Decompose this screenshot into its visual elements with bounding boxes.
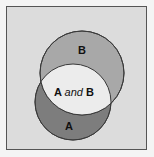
venn-diagram: B A A and B bbox=[0, 0, 154, 157]
set-b-label: B bbox=[78, 44, 86, 56]
intersection-label-and: and bbox=[65, 86, 84, 98]
set-a-label: A bbox=[65, 120, 73, 132]
intersection-label-a: A bbox=[54, 86, 62, 98]
intersection-label: A and B bbox=[54, 86, 94, 98]
intersection-label-b: B bbox=[86, 86, 94, 98]
